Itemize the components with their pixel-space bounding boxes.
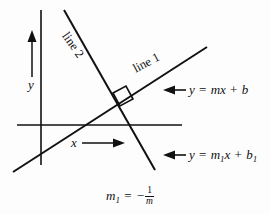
line-1-equation: y = mx + b [189, 83, 248, 96]
slope-lhs-subscript: 1 [115, 195, 120, 205]
slope-denominator: m [145, 196, 154, 207]
eq2-x: x [225, 147, 231, 162]
eq1-equals: = [198, 82, 207, 97]
eq1-intercept: b [242, 82, 249, 97]
arrow-up-icon [28, 30, 37, 77]
eq2-lhs: y [189, 147, 195, 162]
callout-arrow-line-2-icon [163, 151, 186, 160]
slope-lhs: m [106, 188, 115, 203]
x-axis-label: x [71, 136, 77, 149]
slope-fraction: 1m [145, 186, 154, 207]
slope-numerator: 1 [145, 186, 154, 196]
slope-minus-sign: − [136, 188, 145, 203]
eq2-intercept-subscript: 1 [253, 154, 258, 164]
line-1-graph [13, 47, 207, 172]
arrow-right-icon [82, 139, 125, 148]
eq1-plus: + [229, 82, 238, 97]
slope-equals: = [123, 188, 132, 203]
figure-canvas [0, 0, 270, 214]
slope-relation-equation: m1 = −1m [106, 186, 154, 207]
eq1-x: x [220, 82, 226, 97]
callout-arrow-line-1-icon [163, 86, 186, 95]
eq1-slope: m [211, 82, 220, 97]
y-axis-label: y [28, 78, 34, 91]
eq2-equals: = [198, 147, 207, 162]
geometry-figure: line 2 line 1 y x y = mx + b y = m1x + b… [0, 0, 270, 214]
eq1-lhs: y [189, 82, 195, 97]
line-2-equation: y = m1x + b1 [189, 148, 257, 164]
eq2-plus: + [234, 147, 243, 162]
eq2-slope: m [211, 147, 220, 162]
